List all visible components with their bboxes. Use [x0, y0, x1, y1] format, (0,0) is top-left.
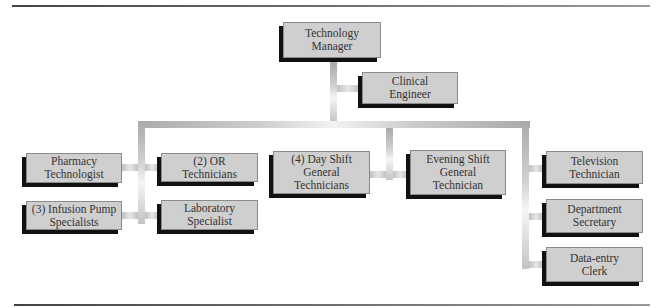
- connector-left-vertical: [138, 121, 145, 224]
- box-face: (3) Infusion Pump Specialists: [26, 201, 122, 230]
- box-face: Data-entry Clerk: [546, 247, 643, 282]
- connector-pharmacy-stub: [122, 164, 138, 171]
- node-label-line: Technology: [305, 27, 359, 40]
- box-face: Department Secretary: [546, 199, 643, 233]
- node-label-line: General: [426, 166, 490, 179]
- node-department-secretary: Department Secretary: [546, 199, 643, 233]
- box-face: Clinical Engineer: [362, 72, 458, 104]
- connector-center-vertical: [386, 128, 393, 180]
- node-television-technician: Television Technician: [546, 151, 643, 184]
- node-label-line: Technicians: [182, 168, 237, 181]
- node-label-line: Manager: [305, 40, 359, 53]
- node-label-line: Technologist: [44, 168, 103, 181]
- node-infusion-pump-specialists: (3) Infusion Pump Specialists: [26, 201, 122, 230]
- node-label-line: Evening Shift: [426, 153, 490, 166]
- connector-tv-stub: [529, 165, 543, 172]
- node-clinical-engineer: Clinical Engineer: [362, 72, 458, 104]
- connector-manager-stem: [330, 62, 337, 122]
- node-label-line: Specialists: [32, 216, 116, 229]
- node-label-line: (2) OR: [182, 155, 237, 168]
- box-face: (2) OR Technicians: [161, 153, 258, 182]
- box-face: Laboratory Specialist: [161, 200, 258, 230]
- node-pharmacy-technologist: Pharmacy Technologist: [26, 153, 122, 183]
- node-or-technicians: (2) OR Technicians: [161, 153, 258, 182]
- node-label-line: Laboratory: [184, 202, 235, 215]
- connector-main-horizontal: [138, 121, 530, 128]
- node-data-entry-clerk: Data-entry Clerk: [546, 247, 643, 282]
- box-face: Evening Shift General Technician: [410, 150, 506, 195]
- node-technology-manager: Technology Manager: [283, 22, 381, 58]
- box-face: (4) Day Shift General Technicians: [273, 151, 370, 194]
- node-label-line: Pharmacy: [44, 155, 103, 168]
- node-laboratory-specialist: Laboratory Specialist: [161, 200, 258, 230]
- connector-infusion-stub: [122, 212, 138, 219]
- node-label-line: Television: [569, 155, 619, 168]
- box-face: Television Technician: [546, 151, 643, 184]
- top-rule: [12, 5, 650, 7]
- node-label-line: (4) Day Shift: [291, 153, 352, 166]
- node-label-line: General: [291, 166, 352, 179]
- node-evening-shift-technician: Evening Shift General Technician: [410, 150, 506, 195]
- connector-clinical-stub: [337, 85, 359, 92]
- node-label-line: Technician: [569, 168, 619, 181]
- node-label-line: Data-entry: [570, 252, 619, 265]
- connector-right-vertical: [522, 121, 529, 269]
- bottom-rule: [14, 304, 650, 306]
- node-label-line: Specialist: [184, 215, 235, 228]
- node-day-shift-technicians: (4) Day Shift General Technicians: [273, 151, 370, 194]
- node-label-line: Secretary: [567, 216, 621, 229]
- node-label-line: (3) Infusion Pump: [32, 203, 116, 216]
- node-label-line: Technician: [426, 179, 490, 192]
- box-face: Pharmacy Technologist: [26, 153, 122, 183]
- connector-dataentry-stub: [529, 261, 543, 268]
- connector-day-stub: [370, 171, 386, 178]
- node-label-line: Technicians: [291, 179, 352, 192]
- node-label-line: Clinical: [389, 75, 431, 88]
- node-label-line: Engineer: [389, 88, 431, 101]
- box-face: Technology Manager: [283, 22, 381, 58]
- connector-secretary-stub: [529, 213, 543, 220]
- node-label-line: Department: [567, 203, 621, 216]
- node-label-line: Clerk: [570, 265, 619, 278]
